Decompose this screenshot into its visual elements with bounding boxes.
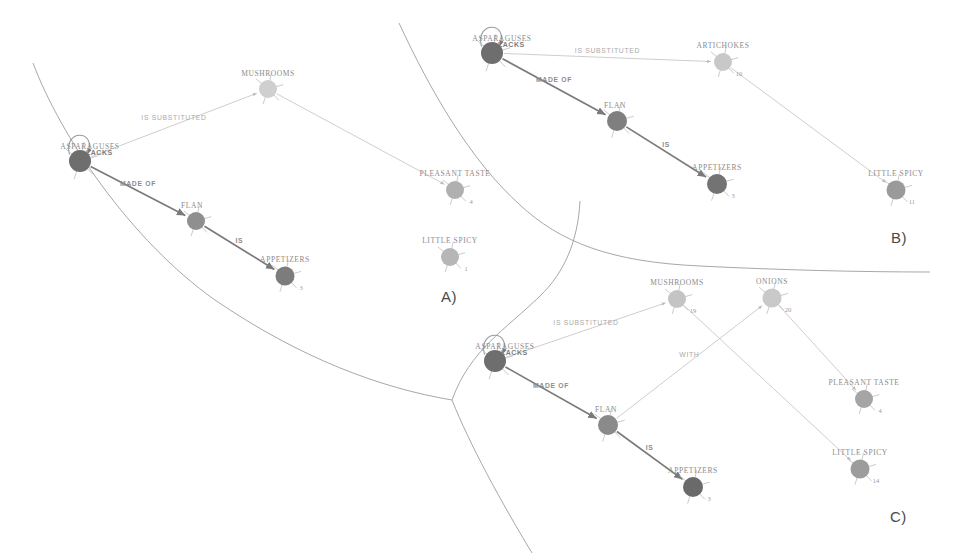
- node-label-artichokes: ARTICHOKES: [696, 41, 749, 50]
- node-asparaguses[interactable]: ASPARAGUSES: [475, 342, 534, 379]
- node-label-flan: FLAN: [604, 101, 626, 110]
- edge-label-asparaguses-mushrooms: IS SUBSTITUTED: [141, 114, 206, 121]
- panel-letter-c: C): [890, 508, 907, 525]
- node-mushrooms[interactable]: MUSHROOMS19: [650, 278, 704, 314]
- node-count-little_spicy: 14: [873, 477, 880, 484]
- node-appetizers[interactable]: APPETIZERS3: [692, 163, 742, 201]
- edge-asparaguses-to-flan: [505, 367, 596, 419]
- node-little_spicy[interactable]: LITTLE SPICY11: [868, 169, 924, 206]
- node-asparaguses[interactable]: ASPARAGUSES: [60, 142, 119, 179]
- boundary-c-left: [452, 201, 580, 400]
- node-count-little_spicy: 1: [464, 265, 467, 272]
- node-label-appetizers: APPETIZERS: [668, 466, 718, 475]
- edge-mushrooms-to-little_spicy: [684, 306, 851, 461]
- node-circle-appetizers[interactable]: [707, 174, 727, 194]
- node-circle-artichokes[interactable]: [714, 53, 732, 71]
- node-flan[interactable]: FLAN: [181, 201, 211, 236]
- edge-label-asparaguses-mushrooms: IS SUBSTITUTED: [553, 319, 618, 326]
- node-count-appetizers: 3: [707, 495, 710, 502]
- node-circle-flan[interactable]: [607, 111, 627, 131]
- node-label-pleasant_taste: PLEASANT TASTE: [828, 378, 899, 387]
- node-circle-asparaguses[interactable]: [484, 350, 506, 372]
- node-label-onions: ONIONS: [756, 277, 788, 286]
- node-label-asparaguses: ASPARAGUSES: [475, 342, 534, 351]
- node-circle-flan[interactable]: [187, 212, 205, 230]
- node-label-appetizers: APPETIZERS: [692, 163, 742, 172]
- node-label-pleasant_taste: PLEASANT TASTE: [419, 169, 490, 178]
- node-label-little_spicy: LITTLE SPICY: [832, 448, 888, 457]
- node-appetizers[interactable]: APPETIZERS3: [260, 255, 310, 292]
- edge-asparaguses-to-artichokes: [504, 53, 711, 61]
- node-label-mushrooms: MUSHROOMS: [241, 69, 295, 78]
- edge-label-asparaguses-flan: MADE OF: [120, 180, 156, 187]
- node-circle-appetizers[interactable]: [276, 267, 295, 286]
- node-label-little_spicy: LITTLE SPICY: [868, 169, 924, 178]
- node-label-flan: FLAN: [595, 405, 617, 414]
- edge-label-flan-appetizers: IS: [236, 237, 244, 244]
- node-little_spicy[interactable]: LITTLE SPICY14: [832, 448, 888, 485]
- node-circle-mushrooms[interactable]: [259, 80, 277, 98]
- node-count-pleasant_taste: 4: [878, 407, 882, 414]
- node-count-onions: 20: [785, 306, 792, 313]
- node-appetizers[interactable]: APPETIZERS3: [668, 466, 718, 504]
- node-pleasant_taste[interactable]: PLEASANT TASTE4: [828, 378, 899, 414]
- node-circle-pleasant_taste[interactable]: [446, 181, 464, 199]
- panel-letter-a: A): [441, 288, 457, 305]
- nodes-layer: ASPARAGUSESMUSHROOMSFLANAPPETIZERS3PLEAS…: [60, 34, 924, 504]
- node-artichokes[interactable]: ARTICHOKES10: [696, 41, 749, 77]
- edges-layer: IS SUBSTITUTEDMADE OFISLACKSIS SUBSTITUT…: [69, 27, 886, 479]
- panel-letter-b: B): [891, 229, 907, 246]
- node-count-appetizers: 3: [299, 284, 302, 291]
- edge-artichokes-to-little_spicy: [731, 68, 886, 183]
- node-circle-pleasant_taste[interactable]: [855, 390, 873, 408]
- node-flan[interactable]: FLAN: [595, 405, 625, 442]
- edge-label-flan-onions: WITH: [679, 351, 699, 358]
- node-label-asparaguses: ASPARAGUSES: [60, 142, 119, 151]
- edge-label-asparaguses-artichokes: IS SUBSTITUTED: [575, 47, 640, 54]
- node-circle-little_spicy[interactable]: [851, 460, 870, 479]
- node-count-appetizers: 3: [731, 192, 734, 199]
- edge-asparaguses-to-flan: [503, 59, 606, 115]
- node-circle-asparaguses[interactable]: [69, 150, 91, 172]
- edge-label-flan-appetizers: IS: [662, 141, 670, 148]
- node-circle-flan[interactable]: [598, 415, 618, 435]
- node-circle-mushrooms[interactable]: [668, 290, 686, 308]
- node-label-asparaguses: ASPARAGUSES: [472, 34, 531, 43]
- node-circle-little_spicy[interactable]: [441, 248, 459, 266]
- edge-label-asparaguses-flan: MADE OF: [533, 382, 569, 389]
- edge-asparaguses-to-flan: [91, 167, 186, 216]
- node-circle-onions[interactable]: [763, 289, 782, 308]
- node-count-artichokes: 10: [736, 70, 743, 77]
- figure-canvas: IS SUBSTITUTEDMADE OFISLACKSIS SUBSTITUT…: [0, 0, 965, 555]
- edge-label-asparaguses-flan: MADE OF: [536, 76, 572, 83]
- node-label-mushrooms: MUSHROOMS: [650, 278, 704, 287]
- node-asparaguses[interactable]: ASPARAGUSES: [472, 34, 531, 71]
- node-label-flan: FLAN: [181, 201, 203, 210]
- graph-scene: IS SUBSTITUTEDMADE OFISLACKSIS SUBSTITUT…: [0, 0, 965, 555]
- node-onions[interactable]: ONIONS20: [756, 277, 791, 314]
- node-count-mushrooms: 19: [690, 307, 697, 314]
- node-circle-asparaguses[interactable]: [481, 42, 503, 64]
- node-label-appetizers: APPETIZERS: [260, 255, 310, 264]
- node-count-little_spicy: 11: [909, 198, 915, 205]
- boundary-b-bottom: [700, 266, 930, 272]
- node-count-pleasant_taste: 4: [469, 198, 473, 205]
- edge-label-flan-appetizers: IS: [646, 444, 654, 451]
- node-pleasant_taste[interactable]: PLEASANT TASTE4: [419, 169, 490, 205]
- node-circle-appetizers[interactable]: [683, 477, 703, 497]
- boundary-a-top: [33, 63, 452, 400]
- region-boundaries: [33, 23, 930, 553]
- edge-flan-to-onions: [617, 306, 762, 419]
- node-little_spicy[interactable]: LITTLE SPICY1: [422, 236, 478, 272]
- boundary-c-bottom: [452, 400, 532, 553]
- node-circle-little_spicy[interactable]: [887, 181, 906, 200]
- node-flan[interactable]: FLAN: [604, 101, 634, 138]
- node-label-little_spicy: LITTLE SPICY: [422, 236, 478, 245]
